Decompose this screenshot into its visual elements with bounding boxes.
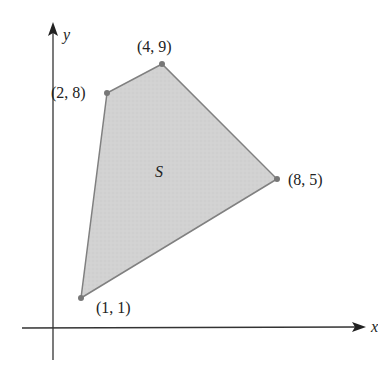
vertex-label: (8, 5) — [288, 171, 323, 189]
vertex-point — [274, 176, 280, 182]
x-axis — [22, 327, 356, 328]
vertex-label: (4, 9) — [137, 38, 172, 56]
region-s — [81, 64, 277, 298]
y-axis-label: y — [61, 26, 71, 44]
vertex-label: (2, 8) — [51, 84, 86, 102]
vertex-point — [78, 295, 84, 301]
x-axis-label: x — [370, 318, 378, 335]
vertex-label: (1, 1) — [96, 299, 131, 317]
region-diagram: x y S (1, 1) (8, 5) (4, 9) (2, 8) — [0, 0, 378, 369]
vertex-point — [104, 90, 110, 96]
vertex-point — [159, 61, 165, 67]
region-label: S — [155, 163, 163, 180]
